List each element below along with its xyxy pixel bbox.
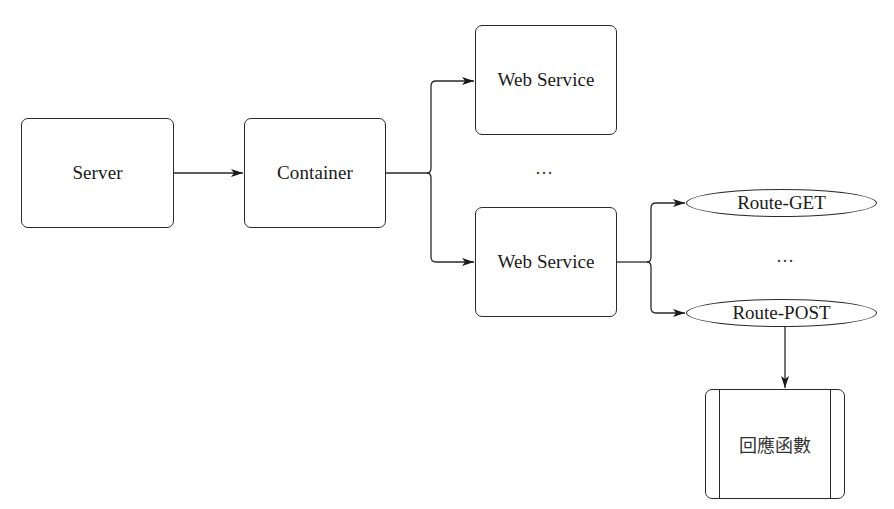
server-node: Server <box>21 118 174 228</box>
web-services-ellipsis: … <box>535 159 553 177</box>
flowchart-diagram: Server Container Web Service … Web Servi… <box>0 0 894 509</box>
callback-function-label: 回應函數 <box>739 431 811 457</box>
container-node: Container <box>244 118 386 228</box>
container-label: Container <box>277 162 353 184</box>
route-get-label: Route-GET <box>737 192 826 214</box>
web-service-2-label: Web Service <box>497 251 594 273</box>
edge-brace-webservice-2 <box>427 173 474 262</box>
edge-brace-webservice-1 <box>427 81 474 173</box>
web-service-1-label: Web Service <box>497 69 594 91</box>
route-post-label: Route-POST <box>732 302 830 324</box>
web-service-node-2: Web Service <box>475 207 617 317</box>
edge-brace-route-post <box>647 262 685 313</box>
route-post-node: Route-POST <box>686 299 877 327</box>
predefined-process-bar-right <box>830 390 831 498</box>
callback-function-node: 回應函數 <box>705 389 845 499</box>
predefined-process-bar-left <box>719 390 720 498</box>
edge-brace-route-get <box>647 203 685 262</box>
web-service-node-1: Web Service <box>475 25 617 135</box>
server-label: Server <box>72 162 122 184</box>
routes-ellipsis: … <box>776 247 794 265</box>
route-get-node: Route-GET <box>686 189 877 217</box>
